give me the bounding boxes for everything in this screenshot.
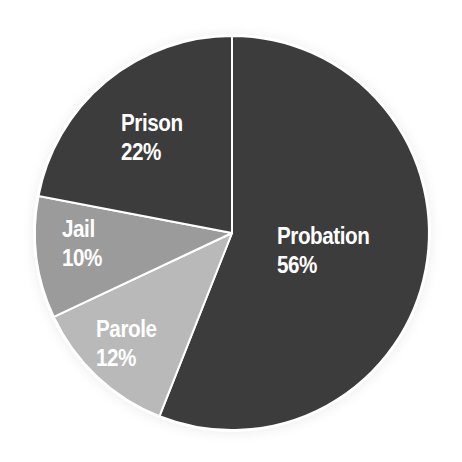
label-prison-name: Prison xyxy=(121,108,183,137)
label-probation-percent: 56% xyxy=(277,250,369,279)
label-jail-name: Jail xyxy=(62,214,102,243)
label-jail-percent: 10% xyxy=(62,243,102,272)
label-parole-percent: 12% xyxy=(96,343,157,372)
label-prison: Prison 22% xyxy=(121,108,183,166)
label-prison-percent: 22% xyxy=(121,137,183,166)
label-parole-name: Parole xyxy=(96,314,157,343)
label-jail: Jail 10% xyxy=(62,214,102,272)
label-probation-name: Probation xyxy=(277,221,369,250)
label-parole: Parole 12% xyxy=(96,314,157,372)
label-probation: Probation 56% xyxy=(277,221,369,279)
